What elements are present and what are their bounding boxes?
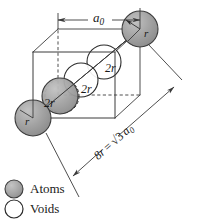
label-radius-bottom: r (25, 116, 29, 127)
edge-depth-top-left (33, 29, 58, 52)
legend-label-voids: Voids (30, 202, 59, 215)
label-cell-edge: a0 (93, 11, 104, 27)
label-cell-edge-sub: 0 (100, 17, 105, 27)
bcc-unit-cell-figure: a0 r r 2r 2r 2r 8r = √3 a0 Atoms Voids (0, 0, 198, 219)
edge-depth-bottom-right (115, 95, 140, 118)
label-radius-top: r (144, 28, 148, 39)
legend-atoms-circle (5, 180, 23, 198)
label-diameter-middle: 2r (81, 83, 92, 95)
legend-symbols (5, 180, 23, 218)
label-diameter-upper: 2r (105, 62, 116, 74)
diagonal-extension-upper (148, 44, 182, 80)
legend-label-atoms: Atoms (30, 182, 65, 195)
label-diameter-lower: 2r (44, 97, 55, 109)
legend-voids-circle (5, 200, 23, 218)
